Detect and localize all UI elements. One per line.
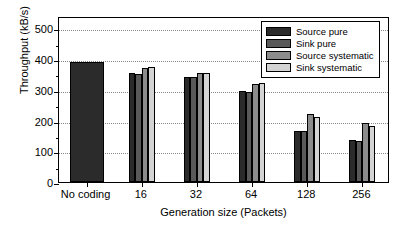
legend-item: Sink pure — [266, 38, 374, 49]
x-tick-mark — [142, 182, 143, 187]
x-tick-label: 64 — [245, 188, 257, 200]
bar-group — [184, 16, 210, 182]
legend-swatch — [266, 51, 291, 60]
legend-label: Source pure — [296, 27, 348, 37]
gridline — [59, 92, 388, 93]
y-tick-mark — [54, 153, 59, 154]
bar — [70, 62, 104, 182]
y-minor-tick — [56, 138, 59, 139]
x-tick-mark — [197, 182, 198, 187]
x-tick-mark — [307, 182, 308, 187]
gridline — [59, 123, 388, 124]
chart-legend: Source pureSink pureSource systematicSin… — [261, 21, 380, 78]
x-tick-label: No coding — [61, 188, 111, 200]
legend-label: Source systematic — [296, 51, 374, 61]
x-tick-label: 256 — [352, 188, 370, 200]
bar-group — [70, 16, 104, 182]
y-tick-label: 0 — [11, 177, 53, 189]
y-tick-mark — [54, 92, 59, 93]
y-minor-tick — [56, 169, 59, 170]
y-tick-label: 400 — [11, 54, 53, 66]
bar-chart: Throughput (kB/s) Generation size (Packe… — [0, 0, 403, 230]
y-tick-label: 300 — [11, 85, 53, 97]
x-tick-mark — [87, 182, 88, 187]
x-tick-label: 32 — [190, 188, 202, 200]
y-tick-mark — [54, 61, 59, 62]
bar — [314, 117, 321, 182]
legend-item: Sink systematic — [266, 62, 374, 73]
bar — [369, 126, 376, 182]
x-tick-mark — [252, 182, 253, 187]
legend-swatch — [266, 27, 291, 36]
legend-label: Sink systematic — [296, 63, 362, 73]
x-tick-label: 128 — [297, 188, 315, 200]
legend-item: Source systematic — [266, 50, 374, 61]
x-axis-title: Generation size (Packets) — [58, 206, 389, 218]
y-tick-mark — [54, 123, 59, 124]
legend-swatch — [266, 63, 291, 72]
y-tick-label: 500 — [11, 23, 53, 35]
x-tick-mark — [362, 182, 363, 187]
legend-swatch — [266, 39, 291, 48]
y-tick-label: 200 — [11, 116, 53, 128]
legend-item: Source pure — [266, 26, 374, 37]
y-minor-tick — [56, 76, 59, 77]
bar — [148, 67, 155, 182]
y-minor-tick — [56, 46, 59, 47]
y-tick-mark — [54, 30, 59, 31]
bar-group — [129, 16, 155, 182]
gridline — [59, 153, 388, 154]
y-minor-tick — [56, 107, 59, 108]
bar — [203, 73, 210, 182]
bar — [259, 83, 266, 182]
y-tick-label: 100 — [11, 146, 53, 158]
x-tick-label: 16 — [135, 188, 147, 200]
y-tick-mark — [54, 184, 59, 185]
legend-label: Sink pure — [296, 39, 336, 49]
